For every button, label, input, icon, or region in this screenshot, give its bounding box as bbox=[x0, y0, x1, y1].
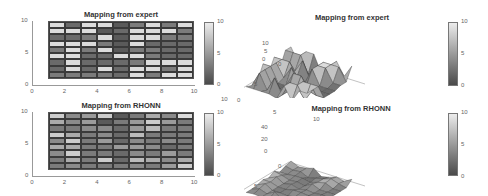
y-tick-label: 10 bbox=[221, 96, 228, 102]
heatmap-cell bbox=[65, 72, 81, 78]
surface-expert-panel: Mapping from expert 0510051005100510 bbox=[244, 0, 488, 98]
heatmap-cell bbox=[177, 163, 193, 169]
x-tick-label: 10 bbox=[191, 179, 198, 185]
heatmap-cell bbox=[145, 72, 161, 78]
heatmap-cell bbox=[129, 72, 145, 78]
heatmap-cell bbox=[97, 163, 113, 169]
x-tick-label: 8 bbox=[160, 179, 163, 185]
y-tick-label: 0 bbox=[278, 163, 281, 169]
heatmap-expert-grid bbox=[48, 21, 194, 79]
heatmap-rhonn-title: Mapping from RHONN bbox=[81, 101, 160, 110]
x-tick-label: 0 bbox=[30, 88, 33, 94]
colorbar-tick-label: 5 bbox=[217, 50, 220, 56]
surface-expert-colorbar bbox=[448, 22, 458, 86]
heatmap-cell bbox=[113, 163, 129, 169]
colorbar-tick-label: 10 bbox=[217, 109, 224, 115]
heatmap-cell bbox=[49, 163, 65, 169]
heatmap-expert-colorbar bbox=[204, 22, 214, 85]
colorbar-tick-label: 0 bbox=[461, 173, 464, 179]
colorbar-tick-label: 10 bbox=[461, 18, 468, 24]
colorbar-tick-label: 10 bbox=[461, 109, 468, 115]
heatmap-cell bbox=[97, 72, 113, 78]
z-tick-label: 0 bbox=[264, 148, 267, 154]
colorbar-tick-label: 10 bbox=[217, 18, 224, 24]
heatmap-cell bbox=[161, 163, 177, 169]
z-tick-label: 10 bbox=[262, 40, 269, 46]
z-tick-label: 5 bbox=[264, 48, 267, 54]
x-tick-label: 6 bbox=[128, 88, 131, 94]
x-tick-label: 8 bbox=[160, 88, 163, 94]
heatmap-rhonn-panel: Mapping from RHONN 024681005100510 bbox=[0, 98, 244, 196]
heatmap-cell bbox=[65, 163, 81, 169]
x-tick-label: 4 bbox=[95, 179, 98, 185]
y-tick-label: 0 bbox=[25, 81, 28, 87]
surface-expert-plot bbox=[244, 0, 444, 98]
y-tick-label: 10 bbox=[21, 108, 28, 114]
x-tick-label: 0 bbox=[30, 179, 33, 185]
heatmap-cell bbox=[129, 163, 145, 169]
y-tick-label: 5 bbox=[25, 140, 28, 146]
z-tick-label: 0 bbox=[262, 56, 265, 62]
y-tick-label: 5 bbox=[254, 81, 257, 87]
y-tick-label: 0 bbox=[278, 61, 281, 67]
colorbar-tick-label: 0 bbox=[217, 81, 220, 87]
colorbar-tick-label: 5 bbox=[461, 141, 464, 147]
heatmap-cell bbox=[113, 72, 129, 78]
heatmap-rhonn-grid bbox=[48, 112, 194, 170]
colorbar-tick-label: 0 bbox=[217, 172, 220, 178]
x-tick-label: 6 bbox=[128, 179, 131, 185]
heatmap-cell bbox=[177, 72, 193, 78]
colorbar-tick-label: 0 bbox=[461, 82, 464, 88]
x-tick-label: 4 bbox=[95, 88, 98, 94]
heatmap-expert-panel: Mapping from expert 024681005100510 bbox=[0, 0, 244, 98]
x-tick-label: 2 bbox=[63, 179, 66, 185]
heatmap-cell bbox=[49, 72, 65, 78]
surface-rhonn-plot bbox=[244, 98, 444, 196]
heatmap-cell bbox=[161, 72, 177, 78]
surface-rhonn-panel: Mapping from RHONN 02040051005100510 bbox=[244, 98, 488, 196]
heatmap-cell bbox=[81, 72, 97, 78]
heatmap-cell bbox=[145, 163, 161, 169]
x-tick-label: 10 bbox=[191, 88, 198, 94]
heatmap-rhonn-colorbar bbox=[204, 113, 214, 176]
heatmap-expert-title: Mapping from expert bbox=[84, 10, 158, 19]
colorbar-tick-label: 5 bbox=[461, 50, 464, 56]
y-tick-label: 10 bbox=[21, 17, 28, 23]
y-tick-label: 5 bbox=[254, 183, 257, 189]
y-tick-label: 0 bbox=[25, 172, 28, 178]
x-tick-label: 2 bbox=[63, 88, 66, 94]
colorbar-tick-label: 5 bbox=[217, 141, 220, 147]
z-tick-label: 40 bbox=[261, 124, 268, 130]
y-tick-label: 5 bbox=[25, 49, 28, 55]
surface-rhonn-colorbar bbox=[448, 113, 458, 176]
heatmap-cell bbox=[81, 163, 97, 169]
x-tick-label: 0 bbox=[237, 97, 240, 103]
z-tick-label: 20 bbox=[261, 136, 268, 142]
